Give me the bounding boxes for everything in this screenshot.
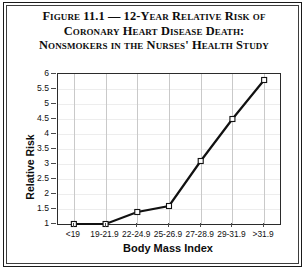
y-axis-tick-label: 2 bbox=[21, 188, 49, 198]
data-point-marker bbox=[167, 204, 172, 209]
y-axis-tick-label: 2.5 bbox=[21, 173, 49, 183]
y-axis-tick-labels: 11.522.533.544.555.56 bbox=[21, 73, 49, 223]
y-axis-tick-label: 5.5 bbox=[21, 83, 49, 93]
x-axis-tick-mark bbox=[200, 223, 201, 227]
x-axis-tick-label: >31.9 bbox=[240, 229, 286, 239]
data-point-marker bbox=[198, 159, 203, 164]
x-axis-tick-mark bbox=[263, 223, 264, 227]
figure-frame: Figure 11.1 — 12-Year Relative Risk of C… bbox=[3, 2, 302, 267]
y-axis-tick-mark bbox=[51, 118, 56, 119]
x-axis-tick-marks bbox=[57, 223, 279, 228]
y-axis-tick-mark bbox=[51, 178, 56, 179]
y-axis-tick-label: 5 bbox=[21, 98, 49, 108]
x-axis-tick-mark bbox=[105, 223, 106, 227]
y-axis-tick-mark bbox=[51, 208, 56, 209]
x-axis-tick-mark bbox=[73, 223, 74, 227]
y-axis-tick-mark bbox=[51, 133, 56, 134]
figure-title: Figure 11.1 — 12-Year Relative Risk of C… bbox=[11, 9, 297, 53]
x-axis-tick-mark bbox=[136, 223, 137, 227]
y-axis-tick-mark bbox=[51, 103, 56, 104]
x-axis-tick-labels: <1919-21.922-24.925-26.927-28.929-31.9>3… bbox=[57, 229, 279, 243]
chart-area: Relative Risk 11.522.533.544.555.56 <191… bbox=[7, 61, 302, 267]
data-series-line bbox=[58, 74, 280, 224]
y-axis-tick-label: 4.5 bbox=[21, 113, 49, 123]
y-axis-tick-label: 6 bbox=[21, 68, 49, 78]
data-point-marker bbox=[262, 78, 267, 83]
y-axis-tick-mark bbox=[51, 223, 56, 224]
y-axis-tick-label: 1 bbox=[21, 218, 49, 228]
y-axis-tick-label: 3 bbox=[21, 158, 49, 168]
y-axis-tick-mark bbox=[51, 88, 56, 89]
x-axis-title: Body Mass Index bbox=[57, 242, 279, 254]
data-point-marker bbox=[230, 117, 235, 122]
y-axis-tick-mark bbox=[51, 73, 56, 74]
y-axis-tick-label: 4 bbox=[21, 128, 49, 138]
figure-inner-border: Figure 11.1 — 12-Year Relative Risk of C… bbox=[6, 5, 299, 264]
y-axis-tick-label: 1.5 bbox=[21, 203, 49, 213]
figure-title-line-1: Figure 11.1 — 12-Year Relative Risk of bbox=[11, 9, 297, 24]
x-axis-tick-mark bbox=[168, 223, 169, 227]
x-axis-tick-mark bbox=[231, 223, 232, 227]
series-polyline bbox=[74, 80, 264, 224]
y-axis-tick-mark bbox=[51, 148, 56, 149]
plot-box bbox=[57, 73, 281, 225]
figure-title-line-2: Coronary Heart Disease Death: bbox=[11, 24, 297, 39]
figure-title-line-3: Nonsmokers in the Nurses' Health Study bbox=[11, 38, 297, 53]
data-point-marker bbox=[135, 210, 140, 215]
y-axis-tick-mark bbox=[51, 163, 56, 164]
y-axis-tick-mark bbox=[51, 193, 56, 194]
y-axis-tick-label: 3.5 bbox=[21, 143, 49, 153]
